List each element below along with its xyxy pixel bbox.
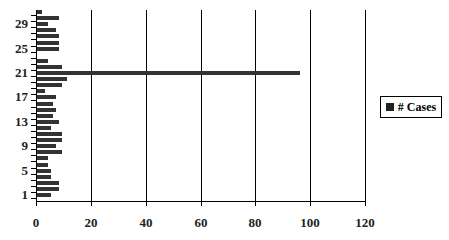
bar-3 bbox=[37, 181, 59, 185]
bar-21 bbox=[37, 71, 300, 75]
y-tick bbox=[31, 33, 36, 34]
y-tick bbox=[31, 174, 36, 175]
y-tick bbox=[31, 39, 36, 40]
y-tick bbox=[31, 137, 36, 138]
y-tick bbox=[31, 94, 36, 95]
x-tick-label: 0 bbox=[16, 215, 56, 231]
bar-12 bbox=[37, 126, 51, 130]
legend-swatch-icon bbox=[386, 103, 394, 111]
gridline bbox=[146, 10, 147, 201]
y-tick bbox=[31, 15, 36, 16]
bar-5 bbox=[37, 169, 51, 173]
y-tick bbox=[31, 155, 36, 156]
y-tick bbox=[31, 168, 36, 169]
y-tick bbox=[31, 186, 36, 187]
y-tick bbox=[31, 107, 36, 108]
x-tick-label: 100 bbox=[290, 215, 330, 231]
y-tick-label: 17 bbox=[4, 89, 28, 105]
x-tick-label: 80 bbox=[235, 215, 275, 231]
y-tick-label: 1 bbox=[4, 187, 28, 203]
bar-15 bbox=[37, 108, 56, 112]
gridline bbox=[91, 10, 92, 201]
bar-29 bbox=[37, 22, 48, 26]
y-tick bbox=[31, 100, 36, 101]
y-tick bbox=[31, 27, 36, 28]
y-tick-label: 21 bbox=[4, 65, 28, 81]
bar-14 bbox=[37, 114, 53, 118]
y-tick-label: 5 bbox=[4, 163, 28, 179]
bar-19 bbox=[37, 83, 62, 87]
y-tick-label: 13 bbox=[4, 114, 28, 130]
bar-31 bbox=[37, 10, 42, 14]
y-tick bbox=[31, 125, 36, 126]
y-tick bbox=[31, 82, 36, 83]
x-tick-label: 40 bbox=[126, 215, 166, 231]
x-tick-label: 120 bbox=[345, 215, 385, 231]
gridline bbox=[201, 10, 202, 201]
legend-label: # Cases bbox=[398, 100, 436, 115]
y-tick bbox=[31, 192, 36, 193]
bar-16 bbox=[37, 102, 53, 106]
y-tick bbox=[31, 64, 36, 65]
gridline bbox=[255, 10, 256, 201]
bar-26 bbox=[37, 41, 59, 45]
legend: # Cases bbox=[380, 96, 442, 118]
gridline bbox=[310, 10, 311, 201]
bar-10 bbox=[37, 138, 62, 142]
bar-22 bbox=[37, 65, 62, 69]
bar-25 bbox=[37, 47, 59, 51]
y-tick bbox=[31, 70, 36, 71]
bar-11 bbox=[37, 132, 62, 136]
bar-27 bbox=[37, 34, 59, 38]
bar-8 bbox=[37, 150, 62, 154]
gridline bbox=[365, 10, 366, 201]
bar-1 bbox=[37, 193, 51, 197]
y-tick-label: 29 bbox=[4, 16, 28, 32]
bar-20 bbox=[37, 77, 67, 81]
y-tick bbox=[31, 198, 36, 199]
x-tick-label: 20 bbox=[71, 215, 111, 231]
x-axis bbox=[36, 201, 366, 202]
y-tick-label: 25 bbox=[4, 41, 28, 57]
y-tick bbox=[31, 180, 36, 181]
y-tick bbox=[31, 161, 36, 162]
x-tick-label: 60 bbox=[181, 215, 221, 231]
y-tick bbox=[31, 76, 36, 77]
y-tick bbox=[31, 113, 36, 114]
bar-17 bbox=[37, 95, 56, 99]
y-tick bbox=[31, 46, 36, 47]
bar-18 bbox=[37, 89, 45, 93]
bar-30 bbox=[37, 16, 59, 20]
bar-6 bbox=[37, 163, 48, 167]
plot-area bbox=[36, 10, 365, 201]
y-tick bbox=[31, 143, 36, 144]
y-tick bbox=[31, 52, 36, 53]
bar-7 bbox=[37, 156, 48, 160]
bar-2 bbox=[37, 187, 59, 191]
y-tick bbox=[31, 149, 36, 150]
y-tick-label: 9 bbox=[4, 138, 28, 154]
y-tick bbox=[31, 131, 36, 132]
y-tick bbox=[31, 119, 36, 120]
bar-4 bbox=[37, 175, 51, 179]
y-tick bbox=[31, 88, 36, 89]
y-tick bbox=[31, 58, 36, 59]
bar-9 bbox=[37, 144, 56, 148]
bar-23 bbox=[37, 59, 48, 63]
bar-13 bbox=[37, 120, 59, 124]
y-tick bbox=[31, 21, 36, 22]
bar-28 bbox=[37, 28, 56, 32]
